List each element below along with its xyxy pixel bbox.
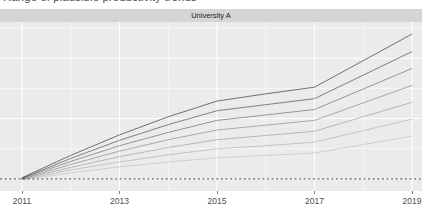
x-axis: 20112013201520172019	[0, 191, 422, 218]
facet-strip: University A	[0, 9, 422, 22]
facet-strip-label: University A	[0, 9, 422, 22]
x-tick-mark	[314, 191, 315, 194]
x-tick-mark	[119, 191, 120, 194]
chart-figure: Range of plausible productivity trends U…	[0, 0, 429, 218]
x-tick-label: 2017	[305, 196, 324, 206]
x-tick-label: 2013	[110, 196, 129, 206]
x-tick-mark	[217, 191, 218, 194]
x-tick-label: 2015	[208, 196, 227, 206]
chart-title: Range of plausible productivity trends	[3, 0, 197, 4]
x-tick-label: 2019	[403, 196, 422, 206]
x-tick-mark	[22, 191, 23, 194]
gridlines-horizontal	[0, 28, 422, 179]
plot-canvas	[0, 22, 422, 191]
x-tick-mark	[412, 191, 413, 194]
plot-panel	[0, 22, 422, 191]
x-tick-label: 2011	[13, 196, 31, 206]
